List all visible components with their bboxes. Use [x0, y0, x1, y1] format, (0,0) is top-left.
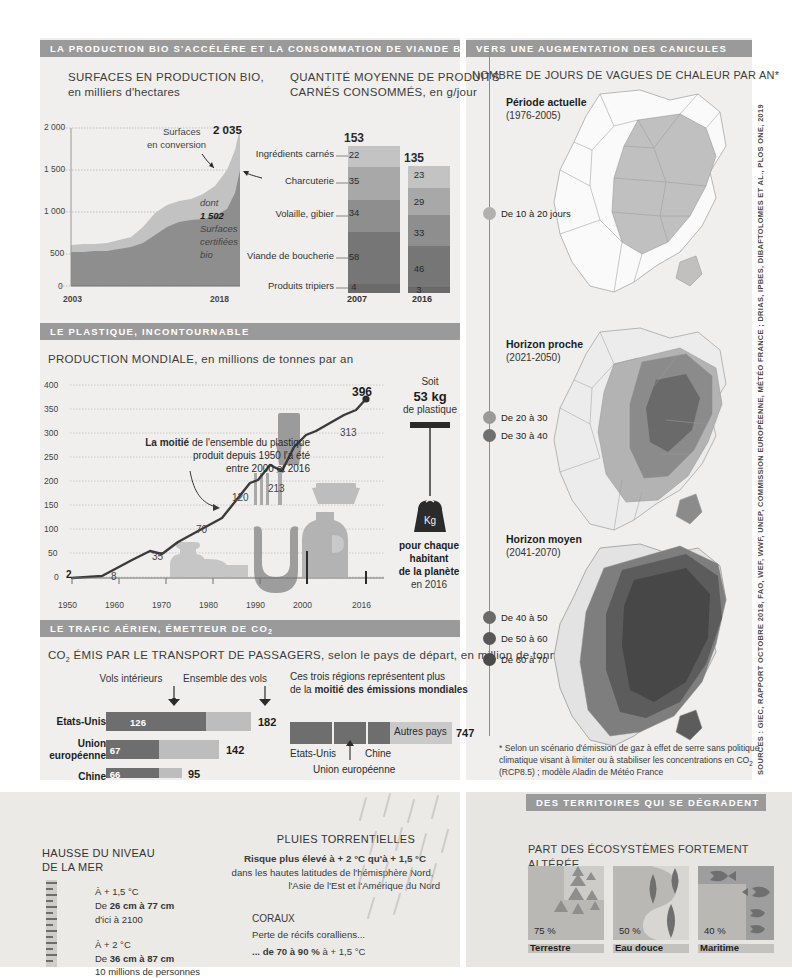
- meat-year-2016: 2016: [399, 294, 445, 304]
- meat-value-2007-ingredients: 22: [334, 149, 374, 160]
- meat-value-2007-charcuterie: 35: [334, 175, 374, 186]
- plastic-foot-l2: habitant: [390, 553, 468, 564]
- trafic-cat-ue-l1: Union: [20, 738, 106, 750]
- sea-extra-1: d'ici à 2100: [95, 913, 143, 926]
- section-title-plastique: LE PLASTIQUE, INCONTOURNABLE: [40, 323, 460, 340]
- bio-anno-total: 2 035: [213, 124, 242, 136]
- sea-range-1-pre: De: [95, 900, 110, 911]
- bio-ytick-1500: 1 500: [44, 164, 65, 174]
- trafic-total-ue: 142: [226, 744, 244, 756]
- section-title-territoires: DES TERRITOIRES QUI SE DÉGRADENT: [526, 794, 766, 811]
- part-label-autres: Autres pays: [394, 726, 447, 737]
- plastic-xtick-1960: 1960: [105, 600, 124, 610]
- legend-label-50-60: De 50 à 60: [501, 633, 547, 644]
- legend-dot-20-30[interactable]: [483, 411, 496, 424]
- legend-dot-40-50[interactable]: [483, 611, 496, 624]
- trafic-sub-pre: CO: [48, 649, 66, 661]
- plastic-ytick-0: 0: [54, 572, 59, 582]
- sea-head-l1: HAUSSE DU NIVEAU: [42, 846, 155, 860]
- legend-label-10-20: De 10 à 20 jours: [501, 208, 571, 219]
- eco-label-terrestre: Terrestre: [530, 942, 571, 953]
- meat-label-boucherie: Viande de boucherie: [228, 250, 334, 261]
- meat-total-2016: 135: [391, 151, 437, 165]
- sea-range-2-pre: De: [95, 953, 110, 964]
- meat-value-2016-ingredients: 23: [399, 169, 439, 180]
- canicules-footnote-pre: climatique visant à limiter ou à stabili…: [499, 755, 749, 765]
- part-total-747: 747: [456, 727, 474, 739]
- section-title-bio: LA PRODUCTION BIO S'ACCÉLÈRE ET LA CONSO…: [40, 40, 460, 57]
- legend-dot-50-60[interactable]: [483, 632, 496, 645]
- sea-head-l2: DE LA MER: [42, 860, 103, 874]
- legend-dot-10-20[interactable]: [483, 207, 496, 220]
- legend-dot-30-40[interactable]: [483, 429, 496, 442]
- plastic-foot-l4: en 2016: [390, 579, 468, 590]
- eco-pct-maritime: 40 %: [704, 925, 726, 936]
- map-period-proche: (2021-2050): [506, 352, 560, 363]
- plastic-ytick-150: 150: [44, 500, 58, 510]
- bio-left-head-line2: en milliers d'hectares: [68, 85, 180, 100]
- bio-ytick-2000: 2 000: [44, 122, 65, 132]
- meat-value-2007-volaille: 34: [334, 207, 374, 218]
- bio-right-head-line1: QUANTITÉ MOYENNE DE PRODUITS: [290, 70, 500, 85]
- sea-temp-1: À + 1,5 °C: [95, 885, 139, 898]
- legend-label-20-30: De 20 à 30: [501, 412, 547, 423]
- map-horizon-proche: [530, 324, 756, 559]
- meat-value-2016-volaille: 33: [399, 227, 439, 238]
- plastic-ytick-250: 250: [44, 452, 58, 462]
- plastic-callout-bold: La moitié: [145, 437, 189, 448]
- plastic-ytick-50: 50: [48, 548, 57, 558]
- plastic-foot-l1: pour chaque: [390, 540, 468, 551]
- bio-anno-conversion-l2: en conversion: [147, 139, 206, 150]
- plastic-ytick-400: 400: [44, 380, 58, 390]
- trafic-note-pre: de la: [290, 684, 314, 695]
- meat-label-ingredients: Ingrédients carnés: [248, 148, 334, 159]
- part-label-ue: Union européenne: [313, 764, 395, 775]
- plastic-side-de: de plastique: [396, 404, 464, 415]
- plastic-point-1980: 70: [196, 524, 207, 535]
- trafic-total-cn: 95: [188, 768, 200, 780]
- bio-xtick-2003: 2003: [63, 294, 82, 304]
- meat-value-2016-charcuterie: 29: [399, 196, 439, 207]
- plastic-xtick-2000: 2000: [293, 600, 312, 610]
- map-period-moyen: (2041-2070): [506, 547, 560, 558]
- plastic-point-2000: 213: [268, 483, 285, 494]
- plastic-point-1950: 2: [66, 569, 72, 580]
- plastic-foot-l3: de la planète: [390, 566, 468, 577]
- meat-year-2007: 2007: [334, 294, 380, 304]
- plastic-point-2012: 313: [340, 427, 357, 438]
- sources-text: SOURCES : GIEC, RAPPORT OCTOBRE 2018, FA…: [756, 104, 765, 775]
- trafic-note-l2: de la moitié des émissions mondiales: [290, 684, 468, 695]
- bio-ytick-1000: 1 000: [44, 206, 65, 216]
- plastic-xtick-1990: 1990: [246, 600, 265, 610]
- trafic-domestic-us: 126: [118, 717, 158, 728]
- eco-pct-terrestre: 75 %: [534, 925, 556, 936]
- sea-extra-2: 10 millions de personnes: [95, 965, 200, 978]
- plastic-side-kg: 53 kg: [396, 389, 464, 404]
- part-label-etatsunis: Etats-Unis: [290, 748, 336, 759]
- sea-level-ruler-icon: [40, 880, 62, 967]
- plastic-callout-line3: entre 2000 et 2016: [120, 463, 310, 474]
- sea-range-1-bold: 26 cm à 77 cm: [110, 900, 174, 911]
- plastic-point-1990: 120: [232, 492, 249, 503]
- coral-line2: ... de 70 à 90 % à + 1,5 °C: [252, 945, 365, 959]
- map-periode-actuelle: [530, 86, 756, 321]
- meat-label-volaille: Volaille, gibier: [238, 208, 334, 219]
- plastic-callout-line2: produit depuis 1950 l'a été: [120, 450, 310, 461]
- section-title-trafic: LE TRAFIC AÉRIEN, ÉMETTEUR DE CO2: [40, 620, 460, 637]
- bio-ytick-500: 500: [50, 248, 64, 258]
- legend-dot-60-70[interactable]: [483, 653, 496, 666]
- trafic-note-l1: Ces trois régions représentent plus: [290, 671, 445, 682]
- map-horizon-moyen: [530, 540, 756, 765]
- trafic-cat-ue-l2: européenne: [20, 750, 106, 762]
- coral-line2-rest: à + 1,5 °C: [320, 946, 366, 957]
- plastic-callout-rest: de l'ensemble du plastique: [189, 437, 310, 448]
- plastic-xtick-2016: 2016: [352, 600, 371, 610]
- chart-trafic-bars: [44, 686, 274, 778]
- bio-right-head-line2: CARNÉS CONSOMMÉS, en g/jour: [290, 85, 477, 100]
- coral-line1: Perte de récifs coralliens...: [252, 928, 365, 942]
- plastic-ytick-350: 350: [44, 404, 58, 414]
- plastic-ytick-100: 100: [44, 524, 58, 534]
- sea-range-2-bold: 36 cm à 87 cm: [110, 953, 174, 964]
- plastic-point-2016: 396: [352, 385, 372, 399]
- map-title-moyen: Horizon moyen: [506, 533, 582, 545]
